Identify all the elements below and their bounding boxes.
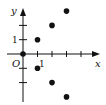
- data-point: [64, 94, 70, 100]
- data-point: [49, 80, 55, 86]
- data-point: [64, 8, 70, 14]
- y-unit-label: 1: [12, 35, 18, 45]
- data-point: [49, 23, 55, 29]
- coordinate-diagram: y x O 1 1: [0, 0, 106, 105]
- x-unit-label: 1: [39, 59, 45, 69]
- x-axis-arrow-icon: [92, 51, 100, 57]
- data-point: [35, 37, 41, 43]
- x-axis-label: x: [95, 58, 101, 69]
- plot-canvas: y x O 1 1: [0, 0, 106, 105]
- y-axis-arrow-icon: [20, 8, 26, 16]
- y-axis-label: y: [10, 5, 17, 16]
- origin-label: O: [12, 58, 20, 69]
- data-point: [20, 51, 26, 57]
